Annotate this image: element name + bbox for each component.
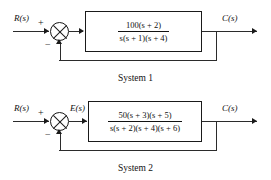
output-arrowhead bbox=[252, 28, 257, 34]
block-input-arrowhead bbox=[79, 28, 84, 34]
feedback-arrowhead bbox=[56, 39, 62, 44]
input-signal-label: R(s) bbox=[14, 14, 29, 23]
summing-minus-sign: − bbox=[45, 130, 51, 140]
transfer-function-numerator: 100(s + 2) bbox=[118, 20, 170, 31]
transfer-function-denominator: s(s + 1)(s + 4) bbox=[118, 31, 170, 43]
transfer-function: 50(s + 3)(s + 5) s(s + 2)(s + 4)(s + 6) bbox=[108, 110, 182, 133]
plant-block: 50(s + 3)(s + 5) s(s + 2)(s + 4)(s + 6) bbox=[88, 101, 202, 142]
feedback-takeoff-line bbox=[216, 31, 217, 60]
summing-plus-sign: + bbox=[38, 108, 44, 118]
feedback-wire bbox=[59, 60, 217, 61]
system-caption: System 2 bbox=[0, 164, 271, 174]
system-caption: System 1 bbox=[0, 74, 271, 84]
summing-plus-sign: + bbox=[38, 18, 44, 28]
error-signal-label: E(s) bbox=[70, 104, 85, 113]
output-signal-label: C(s) bbox=[222, 14, 238, 23]
block-diagram-figure: R(s) + − 100(s + 2) s(s + 1)(s + 4) C(s) bbox=[0, 0, 271, 180]
transfer-function-numerator: 50(s + 3)(s + 5) bbox=[108, 110, 182, 121]
output-wire bbox=[202, 31, 257, 32]
feedback-riser bbox=[60, 42, 61, 60]
system-2-diagram: R(s) + − E(s) 50(s + 3)(s + 5) s(s + 2)(… bbox=[0, 90, 271, 180]
input-arrowhead bbox=[44, 118, 49, 124]
summing-minus-sign: − bbox=[45, 40, 51, 50]
feedback-riser bbox=[60, 132, 61, 150]
output-arrowhead bbox=[252, 118, 257, 124]
plant-block: 100(s + 2) s(s + 1)(s + 4) bbox=[85, 11, 202, 52]
output-wire bbox=[202, 121, 257, 122]
transfer-function: 100(s + 2) s(s + 1)(s + 4) bbox=[118, 20, 170, 43]
output-signal-label: C(s) bbox=[222, 104, 238, 113]
input-signal-label: R(s) bbox=[14, 104, 29, 113]
system-1-diagram: R(s) + − 100(s + 2) s(s + 1)(s + 4) C(s) bbox=[0, 0, 271, 90]
feedback-wire bbox=[59, 150, 217, 151]
transfer-function-denominator: s(s + 2)(s + 4)(s + 6) bbox=[108, 121, 182, 133]
block-input-arrowhead bbox=[82, 118, 87, 124]
feedback-arrowhead bbox=[56, 129, 62, 134]
input-arrowhead bbox=[44, 28, 49, 34]
feedback-takeoff-line bbox=[216, 121, 217, 150]
